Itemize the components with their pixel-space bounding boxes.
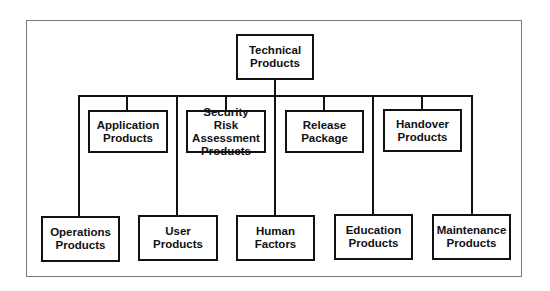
node-application-products: Application Products <box>88 110 168 153</box>
node-label: User Products <box>153 225 203 251</box>
node-education-products: Education Products <box>334 214 413 260</box>
connector-education <box>372 95 374 216</box>
connector-maintenance <box>471 95 473 216</box>
connector-application <box>126 95 128 110</box>
connector-release <box>323 95 325 110</box>
node-label: Human Factors <box>255 225 297 251</box>
node-label: Handover Products <box>396 118 449 144</box>
node-user-products: User Products <box>138 215 218 261</box>
node-label: Security Risk Assessment Products <box>190 106 262 158</box>
node-label: Maintenance Products <box>437 224 507 250</box>
node-label: Education Products <box>346 224 402 250</box>
node-handover-products: Handover Products <box>383 109 462 152</box>
node-human-factors: Human Factors <box>236 215 315 261</box>
node-security-risk-assessment-products: Security Risk Assessment Products <box>186 110 266 153</box>
connector-human <box>274 95 276 216</box>
node-maintenance-products: Maintenance Products <box>432 214 511 260</box>
node-label: Technical Products <box>249 44 301 70</box>
node-label: Release Package <box>301 119 348 145</box>
node-label: Operations Products <box>50 226 111 252</box>
node-operations-products: Operations Products <box>41 216 120 262</box>
connector-handover <box>421 95 423 110</box>
connector-user <box>176 95 178 216</box>
node-technical-products: Technical Products <box>236 34 314 80</box>
node-release-package: Release Package <box>285 110 364 153</box>
node-label: Application Products <box>97 119 160 145</box>
connector-ops <box>78 95 80 216</box>
